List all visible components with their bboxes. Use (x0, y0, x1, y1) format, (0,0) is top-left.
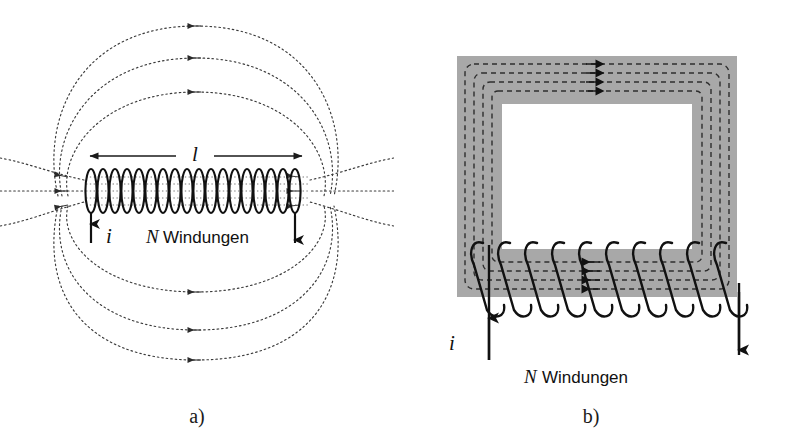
field-loop-3 (483, 82, 711, 271)
turns-symbol: N (523, 366, 538, 387)
current-label: i (449, 331, 455, 355)
panel-solenoid: l (0, 0, 394, 442)
field-arrowheads-left (58, 175, 68, 207)
field-arrows-top (191, 26, 201, 92)
field-loop-2 (474, 73, 720, 280)
turns-label: N Windungen (523, 366, 628, 387)
turns-word: Windungen (542, 368, 628, 387)
field-lines-left (0, 158, 84, 226)
current-label: i (106, 224, 112, 248)
toroid-diagram: i N Windungen (394, 0, 788, 400)
length-label: l (192, 142, 198, 166)
turns-label: N Windungen (145, 226, 249, 247)
panel-toroid: i N Windungen b) (394, 0, 788, 442)
panel-b-caption: b) (394, 405, 788, 428)
solenoid-diagram: l (0, 0, 394, 400)
physics-figure: l (0, 0, 788, 442)
field-arrows-bottom (191, 292, 201, 360)
field-lines-right (310, 158, 394, 226)
turns-word: Windungen (163, 228, 249, 247)
field-loop-4 (492, 91, 702, 262)
turns-symbol: N (145, 226, 160, 247)
panel-a-caption: a) (0, 405, 394, 428)
